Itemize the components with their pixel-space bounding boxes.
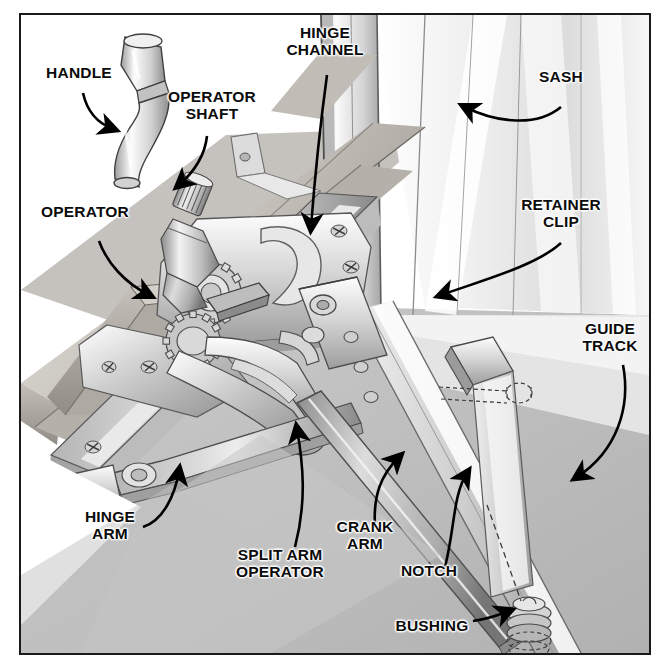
arrow-hinge-channel xyxy=(311,75,327,227)
arrow-operator xyxy=(99,241,149,295)
arrow-split-arm-operator xyxy=(295,429,303,547)
callout-arrows xyxy=(21,15,649,653)
arrow-bushing xyxy=(473,611,509,621)
arrow-notch xyxy=(445,473,467,567)
arrow-hinge-arm xyxy=(143,471,179,527)
callout-label-bushing: BUSHING xyxy=(390,617,474,634)
callout-label-sash: SASH xyxy=(531,68,591,85)
arrow-guide-track xyxy=(577,365,625,477)
callout-label-hinge-arm: HINGE ARM xyxy=(74,508,146,542)
arrow-retainer-clip xyxy=(441,243,561,295)
callout-label-operator: OPERATOR xyxy=(38,203,132,220)
callout-label-operator-shaft: OPERATOR SHAFT xyxy=(158,88,266,122)
callout-label-handle: HANDLE xyxy=(38,64,120,81)
illustration-stage: HANDLE OPERATOR SHAFT HINGE CHANNEL SASH… xyxy=(0,0,664,665)
callout-label-hinge-channel: HINGE CHANNEL xyxy=(273,24,377,58)
arrow-operator-shaft xyxy=(179,136,207,185)
callout-label-crank-arm: CRANK ARM xyxy=(330,518,400,552)
arrow-handle xyxy=(83,93,113,129)
callout-label-guide-track: GUIDE TRACK xyxy=(574,320,646,354)
callout-label-retainer-clip: RETAINER CLIP xyxy=(516,196,606,230)
callout-label-split-arm-operator: SPLIT ARM OPERATOR xyxy=(228,546,332,580)
arrow-sash xyxy=(465,107,561,121)
callout-label-notch: NOTCH xyxy=(396,562,462,579)
illustration-frame xyxy=(19,13,651,655)
arrow-crank-arm xyxy=(375,457,399,527)
